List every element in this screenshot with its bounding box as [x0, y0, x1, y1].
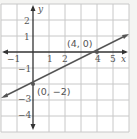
y-tick-1: 1 — [24, 32, 30, 42]
x-tick-neg1: −1 — [7, 54, 20, 64]
y-axis-label: y — [37, 4, 44, 14]
point-0-neg2 — [31, 82, 35, 86]
y-tick-neg3: −3 — [18, 94, 32, 104]
x-tick-1: 1 — [47, 54, 53, 64]
y-tick-neg4: −4 — [18, 110, 32, 120]
y-tick-2: 2 — [24, 16, 30, 26]
point-label-0-neg2: (0, −2) — [37, 86, 71, 97]
x-axis-label: x — [121, 54, 126, 64]
point-label-4-0: (4, 0) — [67, 38, 93, 49]
x-tick-4: 4 — [95, 54, 101, 64]
x-tick-5: 5 — [110, 54, 116, 64]
y-tick-neg1: −1 — [18, 64, 31, 74]
coordinate-graph: y x −1 1 2 4 5 2 1 −1 −3 −4 (4, 0) (0, −… — [0, 0, 137, 139]
x-tick-2: 2 — [62, 54, 68, 64]
